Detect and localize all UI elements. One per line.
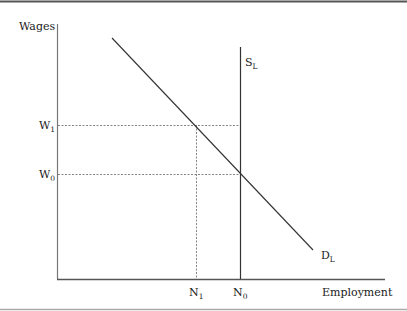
y-axis-label: Wages (19, 20, 55, 33)
w0-label: W0 (39, 168, 55, 183)
supply-label: SL (245, 56, 258, 71)
demand-curve (112, 38, 313, 250)
demand-label: DL (321, 249, 335, 264)
w1-label: W1 (39, 119, 55, 134)
n0-label: N0 (233, 286, 248, 301)
x-axis-label: Employment (322, 286, 393, 299)
diagram-frame: Wages Employment SL DL W1 W0 N1 N0 (0, 0, 407, 311)
labour-market-diagram: Wages Employment SL DL W1 W0 N1 N0 (0, 0, 407, 311)
n1-label: N1 (189, 286, 203, 301)
